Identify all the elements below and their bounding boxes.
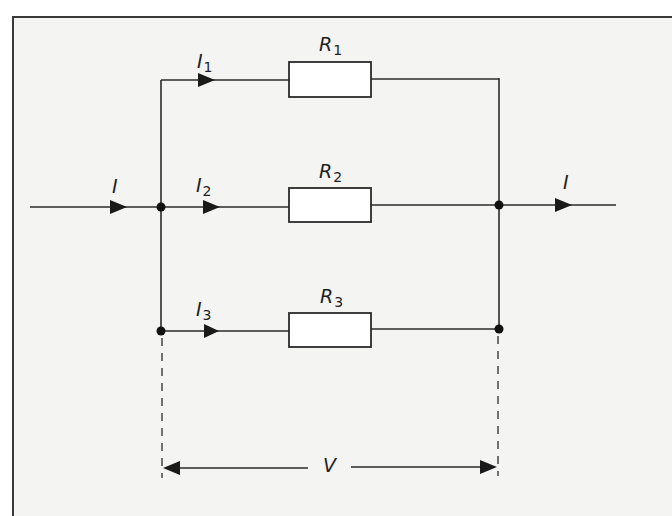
branch-1-current-symbol: I	[197, 50, 203, 72]
junction-right-bottom-icon	[495, 325, 504, 334]
resistor-r2	[289, 188, 371, 222]
voltage-arrow-right-icon	[480, 460, 497, 474]
resistor-r3	[289, 313, 371, 347]
output-current-arrow-icon	[555, 198, 572, 212]
input-current-label: I	[112, 177, 118, 196]
resistor-r1-subscript: 1	[333, 42, 342, 58]
junction-left-bottom-icon	[157, 327, 166, 336]
voltage-arrow-left-icon	[163, 461, 180, 475]
resistor-r2-symbol: R	[319, 160, 332, 182]
branch-1-current-subscript: 1	[204, 59, 213, 75]
resistor-r3-symbol: R	[320, 285, 333, 307]
branch-1-current-label: I1	[197, 52, 213, 74]
junction-right-middle-icon	[495, 201, 504, 210]
junction-left-middle-icon	[157, 203, 166, 212]
branch-2-current-arrow-icon	[203, 200, 220, 214]
branch-2	[161, 188, 499, 222]
branch-3-current-arrow-icon	[204, 324, 219, 338]
resistor-r1-symbol: R	[319, 33, 332, 55]
branch-3-current-subscript: 3	[203, 307, 212, 323]
voltage-label: V	[323, 456, 336, 475]
branch-3-current-label: I3	[196, 300, 212, 322]
resistor-r2-subscript: 2	[333, 169, 342, 185]
output-current-symbol: I	[563, 171, 569, 193]
input-current-arrow-icon	[110, 200, 127, 214]
output-current-label: I	[563, 173, 569, 192]
branch-2-current-symbol: I	[196, 174, 202, 196]
branch-1-current-arrow-icon	[198, 73, 215, 87]
voltage-symbol: V	[323, 454, 336, 476]
resistor-r1-label: R1	[319, 35, 342, 57]
resistor-r2-label: R2	[319, 162, 342, 184]
resistor-r3-label: R3	[320, 287, 343, 309]
resistor-r1	[289, 62, 371, 97]
branch-2-current-label: I2	[196, 176, 212, 198]
branch-2-current-subscript: 2	[203, 183, 212, 199]
branch-3	[161, 313, 499, 347]
input-current-symbol: I	[112, 175, 118, 197]
resistor-r3-subscript: 3	[334, 294, 343, 310]
branch-3-current-symbol: I	[196, 298, 202, 320]
